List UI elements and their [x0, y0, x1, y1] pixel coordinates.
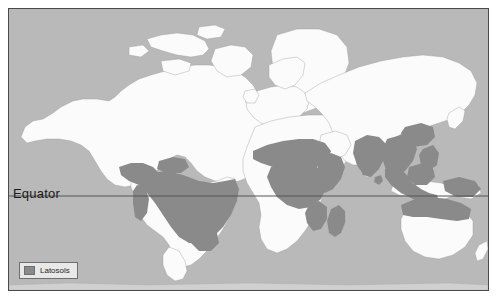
world-map-canvas [9, 9, 488, 290]
land-antarctic-edge [9, 283, 488, 290]
map-figure: Equator Latosols [0, 0, 498, 299]
map-legend: Latosols [19, 262, 78, 279]
world-map-frame: Equator Latosols [8, 8, 489, 291]
legend-swatch-latosols [24, 266, 35, 275]
equator-label: Equator [13, 186, 60, 201]
legend-label-latosols: Latosols [40, 266, 70, 275]
